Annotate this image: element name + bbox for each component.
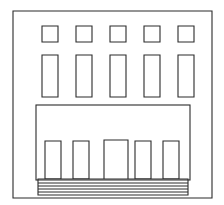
window-ground-1 <box>45 141 61 179</box>
window-small-5 <box>178 26 194 42</box>
window-ground-4 <box>163 141 179 179</box>
window-ground-2 <box>73 141 89 179</box>
window-small-3 <box>110 26 126 42</box>
window-ground-3 <box>135 141 151 179</box>
window-small-2 <box>76 26 92 42</box>
entrance-door <box>104 140 128 181</box>
entrance-steps <box>38 179 188 195</box>
building-facade-illustration <box>0 0 224 205</box>
window-tall-5 <box>178 55 194 97</box>
window-small-1 <box>42 26 58 42</box>
window-tall-3 <box>110 55 126 97</box>
drawing-canvas <box>0 0 224 205</box>
steps-block <box>38 179 188 195</box>
window-tall-2 <box>76 55 92 97</box>
window-tall-4 <box>144 55 160 97</box>
window-small-4 <box>144 26 160 42</box>
window-tall-1 <box>42 55 58 97</box>
